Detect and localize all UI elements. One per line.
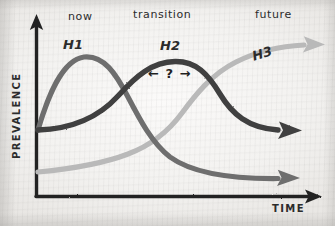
x-axis-label: TIME — [272, 203, 305, 214]
curve-label-h1: H1 — [63, 37, 83, 52]
chart-plot-area — [0, 0, 335, 226]
curve-h2-arrowhead — [278, 122, 302, 139]
curve-label-h2: H2 — [160, 38, 180, 53]
uncertainty-marker: ← ? → — [148, 66, 191, 81]
y-axis-label: PREVALENCE — [11, 73, 22, 159]
era-label-transition: transition — [133, 8, 191, 21]
era-label-now: now — [68, 10, 93, 23]
hand-drawn-prevalence-chart: now transition future H1 H2 H3 ← ? → PRE… — [0, 0, 335, 226]
era-label-future: future — [255, 8, 292, 21]
